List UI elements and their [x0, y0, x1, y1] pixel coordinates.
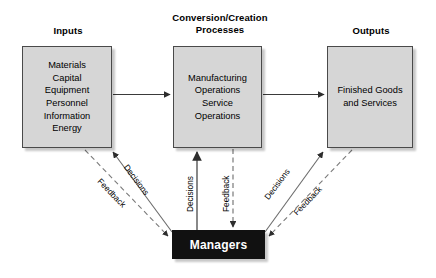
- box-conversion-text: Manufacturing Operations Service Operati…: [188, 72, 247, 122]
- heading-outputs: Outputs: [327, 25, 415, 37]
- box-outputs: Finished Goods and Services: [327, 46, 413, 148]
- edge-label-decisions-center: Decisions: [186, 176, 195, 212]
- connector-feedback-left: [85, 150, 168, 236]
- box-inputs-text: Materials Capital Equipment Personnel In…: [44, 59, 91, 135]
- heading-conversion: Conversion/Creation Processes: [160, 12, 280, 35]
- box-managers-text: Managers: [190, 238, 248, 252]
- heading-conversion-line2: Processes: [160, 24, 280, 36]
- edge-label-feedback-center: Feedback: [222, 176, 231, 212]
- box-inputs: Materials Capital Equipment Personnel In…: [22, 46, 112, 148]
- heading-inputs: Inputs: [22, 25, 114, 37]
- box-outputs-text: Finished Goods and Services: [337, 84, 402, 109]
- box-conversion: Manufacturing Operations Service Operati…: [173, 46, 262, 148]
- box-managers: Managers: [172, 230, 265, 259]
- heading-conversion-line1: Conversion/Creation: [160, 12, 280, 24]
- diagram-canvas: Inputs Conversion/Creation Processes Out…: [0, 0, 436, 278]
